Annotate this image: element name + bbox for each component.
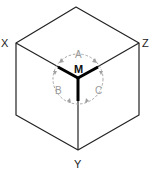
axis-label-x: X [1,37,9,49]
rotation-label-a: A [75,49,82,60]
arrow-head-icon [92,58,97,63]
axis-label-z: Z [142,37,149,49]
axis-label-y: Y [74,158,82,170]
cube-diagram: X Z Y M A B C [0,0,152,173]
arrow-head-icon [85,98,89,103]
rotation-label-c: C [95,85,102,96]
rotation-label-b: B [55,85,62,96]
center-label-m: M [74,63,83,75]
